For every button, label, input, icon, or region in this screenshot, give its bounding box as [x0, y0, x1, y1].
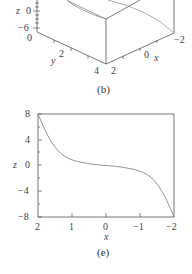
x-axis-label: x — [103, 231, 109, 242]
z-tick-label-0: 0 — [26, 5, 31, 16]
caption-e: (e) — [97, 246, 110, 259]
z-tick-label-neg8: −8 — [18, 211, 29, 222]
x-tick-label-2: 2 — [35, 221, 40, 232]
x-tick-label-neg1: −1 — [133, 221, 144, 232]
z-tick-label-neg4: −4 — [18, 185, 29, 196]
y-axis-line — [37, 32, 106, 64]
x-tick-label-neg2: −2 — [166, 221, 177, 232]
curve-z-equals-x-cubed — [38, 114, 174, 217]
y-tick-label-4: 4 — [94, 65, 99, 76]
box-top-edge-left — [68, 1, 106, 19]
y-tick-label-2: 2 — [59, 48, 64, 59]
x-tick-label-1: 1 — [69, 221, 74, 232]
z-axis-label: z — [12, 159, 17, 170]
plot-e-2d: 8 4 0 −4 −8 z 2 1 0 −1 −2 x (e) — [12, 108, 177, 259]
y-axis-label: y — [50, 55, 56, 66]
x-axis-label: x — [153, 52, 159, 63]
x-tick-label-2: 2 — [111, 65, 116, 76]
y-tick-label-0: 0 — [27, 32, 32, 43]
z-tick-label-0: 0 — [25, 159, 30, 170]
figure: z 0 −6 0 y 2 4 2 0 x −2 (b) — [0, 0, 192, 274]
z-axis-label: z — [15, 5, 20, 16]
x-tick-label-0: 0 — [144, 49, 149, 60]
caption-b: (b) — [97, 83, 110, 96]
plot-b-3d: z 0 −6 0 y 2 4 2 0 x −2 (b) — [15, 0, 185, 96]
box-top-edge-right — [106, 0, 140, 19]
x-tick-label-neg2: −2 — [174, 34, 185, 45]
z-axis-ticks — [38, 114, 42, 217]
z-tick-label-8: 8 — [25, 108, 30, 119]
surface-curve-right — [108, 0, 174, 33]
z-tick-label-4: 4 — [25, 134, 30, 145]
x-axis-ticks — [72, 213, 140, 217]
z-axis-ticks — [33, 3, 40, 28]
